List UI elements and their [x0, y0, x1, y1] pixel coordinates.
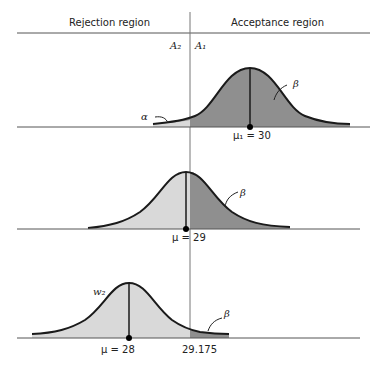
beta-label-3: β	[224, 308, 230, 319]
beta-label-1: β	[293, 78, 299, 89]
beta-label-2: β	[240, 187, 246, 198]
w2-label: w₂	[93, 286, 106, 297]
region-a1-label: A₁	[195, 40, 206, 51]
mean-label-1: μ₁ = 30	[233, 130, 271, 141]
diagram-canvas	[0, 0, 376, 369]
panel-2	[17, 172, 360, 232]
acceptance-region-label: Acceptance region	[231, 17, 324, 28]
alpha-label: α	[141, 111, 148, 122]
rejection-region-label: Rejection region	[69, 17, 150, 28]
critical-value-label: 29.175	[182, 344, 217, 355]
mean-label-2: μ = 29	[172, 232, 206, 243]
region-a2-label: A₂	[170, 40, 181, 51]
mean-label-3: μ = 28	[101, 344, 135, 355]
panel-3	[17, 283, 360, 341]
panel-1	[17, 68, 370, 130]
